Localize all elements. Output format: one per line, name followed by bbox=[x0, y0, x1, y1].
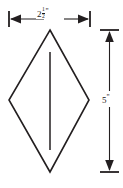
width-right-arrowhead bbox=[78, 15, 89, 24]
height-top-arrowhead bbox=[105, 31, 114, 42]
width-dimension-label: 212" bbox=[36, 7, 50, 19]
technical-drawing-canvas: 212" 5" bbox=[0, 0, 123, 188]
width-left-arrowhead bbox=[10, 15, 21, 24]
height-inch-mark: " bbox=[107, 93, 110, 102]
height-dimension-label: 5" bbox=[101, 93, 111, 106]
rhombus-outline bbox=[9, 30, 89, 172]
width-inch-mark: " bbox=[46, 7, 49, 16]
height-bottom-arrowhead bbox=[105, 160, 114, 171]
